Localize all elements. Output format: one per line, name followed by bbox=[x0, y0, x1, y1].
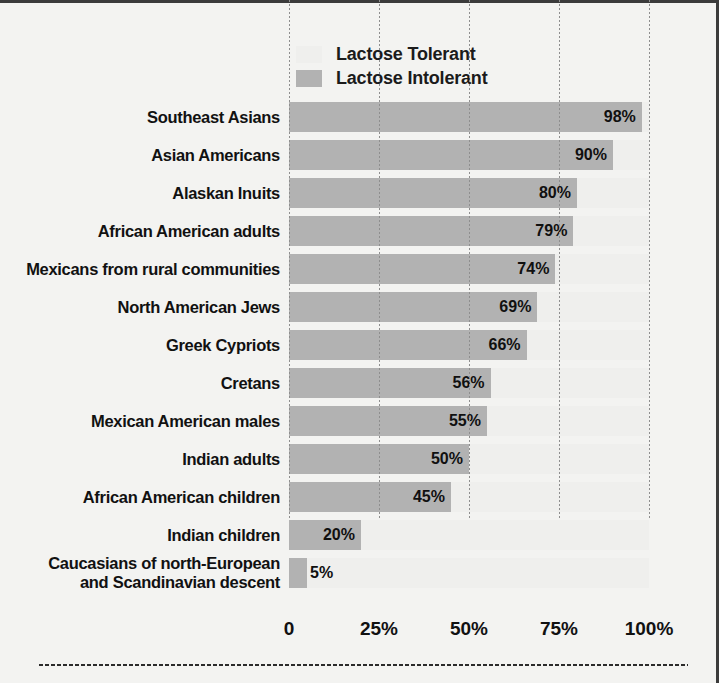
category-label-line: North American Jews bbox=[118, 298, 280, 316]
chart-bar-row: Greek Cypriots66% bbox=[0, 326, 719, 364]
category-label-line: Greek Cypriots bbox=[166, 336, 280, 354]
category-label-line: African American children bbox=[83, 488, 280, 506]
bar-value-label: 5% bbox=[310, 558, 333, 588]
bar-value-label: 55% bbox=[289, 406, 481, 436]
category-label-line: Southeast Asians bbox=[147, 108, 280, 126]
bar-track: 55% bbox=[289, 402, 649, 440]
bar-track: 5% bbox=[289, 554, 649, 592]
bar-value-label: 98% bbox=[289, 102, 636, 132]
category-label-line: Asian Americans bbox=[151, 146, 280, 164]
bar-track: 45% bbox=[289, 478, 649, 516]
bar-track: 69% bbox=[289, 288, 649, 326]
legend-label-lactose-tolerant: Lactose Tolerant bbox=[336, 44, 476, 65]
bar-value-label: 69% bbox=[289, 292, 531, 322]
legend-swatch-lactose-tolerant bbox=[296, 46, 322, 63]
bar-track: 98% bbox=[289, 98, 649, 136]
chart-bar-row: Indian children20% bbox=[0, 516, 719, 554]
chart-bar-row: Caucasians of north-Europeanand Scandina… bbox=[0, 554, 719, 592]
bar-segment-lactose-tolerant bbox=[289, 558, 649, 588]
bar-value-label: 66% bbox=[289, 330, 521, 360]
x-axis-tick-label: 100% bbox=[625, 618, 674, 640]
chart-bar-row: African American adults79% bbox=[0, 212, 719, 250]
bar-value-label: 50% bbox=[289, 444, 463, 474]
bar-track: 20% bbox=[289, 516, 649, 554]
chart-bar-row: Cretans56% bbox=[0, 364, 719, 402]
category-label: Alaskan Inuits bbox=[0, 184, 289, 203]
bar-track: 56% bbox=[289, 364, 649, 402]
chart-plot-area: Southeast Asians98%Asian Americans90%Ala… bbox=[0, 98, 719, 592]
category-label: Greek Cypriots bbox=[0, 336, 289, 355]
category-label-line: and Scandinavian descent bbox=[0, 573, 280, 592]
chart-bar-row: Asian Americans90% bbox=[0, 136, 719, 174]
category-label: Caucasians of north-Europeanand Scandina… bbox=[0, 554, 289, 592]
bar-value-label: 20% bbox=[289, 520, 355, 550]
chart-x-axis: 025%50%75%100% bbox=[289, 618, 689, 648]
bar-value-label: 90% bbox=[289, 140, 607, 170]
page-border-top bbox=[0, 0, 719, 3]
chart-legend: Lactose Tolerant Lactose Intolerant bbox=[296, 42, 487, 90]
footer-dotted-rule bbox=[38, 663, 688, 667]
bar-track: 80% bbox=[289, 174, 649, 212]
bar-value-label: 79% bbox=[289, 216, 567, 246]
x-axis-tick-label: 0 bbox=[284, 618, 295, 640]
category-label-line: Indian children bbox=[167, 526, 280, 544]
category-label: Asian Americans bbox=[0, 146, 289, 165]
bar-value-label: 56% bbox=[289, 368, 485, 398]
category-label: African American children bbox=[0, 488, 289, 507]
bar-value-label: 80% bbox=[289, 178, 571, 208]
category-label: Cretans bbox=[0, 374, 289, 393]
category-label: Mexicans from rural communities bbox=[0, 260, 289, 279]
category-label-line: Mexicans from rural communities bbox=[26, 260, 280, 278]
category-label-line: Alaskan Inuits bbox=[172, 184, 280, 202]
category-label-line: Cretans bbox=[221, 374, 280, 392]
category-label: African American adults bbox=[0, 222, 289, 241]
bar-track: 66% bbox=[289, 326, 649, 364]
category-label: North American Jews bbox=[0, 298, 289, 317]
bar-value-label: 45% bbox=[289, 482, 445, 512]
category-label-line: Caucasians of north-European bbox=[48, 554, 280, 572]
category-label-line: African American adults bbox=[98, 222, 280, 240]
category-label-line: Indian adults bbox=[182, 450, 280, 468]
chart-bar-row: Alaskan Inuits80% bbox=[0, 174, 719, 212]
chart-page: Lactose Tolerant Lactose Intolerant Sout… bbox=[0, 0, 719, 683]
chart-bar-row: Mexicans from rural communities74% bbox=[0, 250, 719, 288]
bar-track: 79% bbox=[289, 212, 649, 250]
category-label: Mexican American males bbox=[0, 412, 289, 431]
chart-bar-row: Indian adults50% bbox=[0, 440, 719, 478]
legend-label-lactose-intolerant: Lactose Intolerant bbox=[336, 68, 487, 89]
bar-value-label: 74% bbox=[289, 254, 549, 284]
chart-bar-row: African American children45% bbox=[0, 478, 719, 516]
category-label-line: Mexican American males bbox=[91, 412, 280, 430]
bar-track: 50% bbox=[289, 440, 649, 478]
legend-item-lactose-intolerant: Lactose Intolerant bbox=[296, 66, 487, 90]
bar-segment-lactose-intolerant bbox=[289, 558, 307, 588]
chart-bar-row: Southeast Asians98% bbox=[0, 98, 719, 136]
chart-bar-row: Mexican American males55% bbox=[0, 402, 719, 440]
bar-track: 90% bbox=[289, 136, 649, 174]
chart-bar-row: North American Jews69% bbox=[0, 288, 719, 326]
legend-swatch-lactose-intolerant bbox=[296, 70, 322, 87]
bar-track: 74% bbox=[289, 250, 649, 288]
x-axis-tick-label: 50% bbox=[450, 618, 488, 640]
category-label: Indian adults bbox=[0, 450, 289, 469]
category-label: Southeast Asians bbox=[0, 108, 289, 127]
category-label: Indian children bbox=[0, 526, 289, 545]
x-axis-tick-label: 75% bbox=[540, 618, 578, 640]
x-axis-tick-label: 25% bbox=[360, 618, 398, 640]
legend-item-lactose-tolerant: Lactose Tolerant bbox=[296, 42, 487, 66]
